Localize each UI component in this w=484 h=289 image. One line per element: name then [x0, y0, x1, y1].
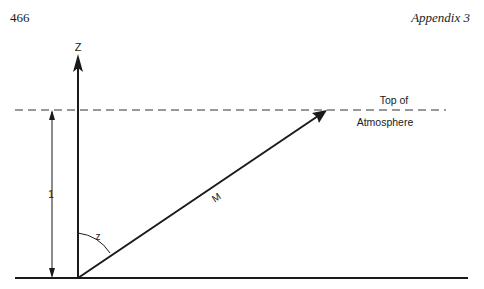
zenith-angle-label: z	[96, 231, 101, 242]
height-label: 1	[48, 189, 54, 200]
air-mass-diagram: Z Top of Atmosphere 1 z M	[0, 0, 484, 289]
top-label-line1: Top of	[380, 94, 409, 106]
slant-path-arrow-icon	[312, 110, 327, 123]
zenith-angle-arc	[78, 233, 110, 253]
z-axis-label: Z	[75, 41, 82, 53]
slant-path-line	[78, 116, 318, 278]
height-arrow-top-icon	[49, 110, 55, 120]
top-label-line2: Atmosphere	[357, 116, 414, 128]
path-length-label: M	[210, 191, 223, 205]
height-arrow-bottom-icon	[49, 268, 55, 278]
